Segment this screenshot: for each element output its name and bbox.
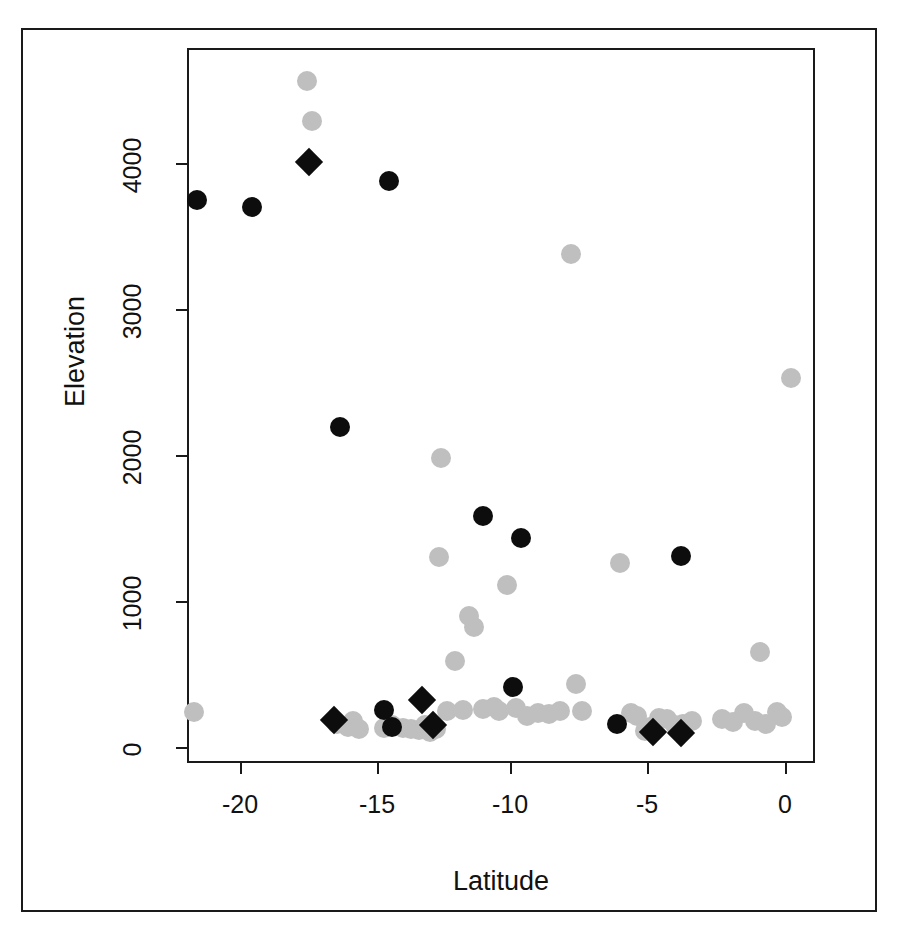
x-tick-minus5 — [647, 763, 649, 774]
x-tick-minus20 — [240, 763, 242, 774]
data-point-gray-circles-0 — [184, 702, 204, 722]
data-point-gray-circles-2 — [302, 111, 322, 131]
data-point-gray-circles-31 — [561, 244, 581, 264]
data-point-gray-circles-1 — [297, 71, 317, 91]
x-tick-label-minus15: -15 — [337, 790, 417, 819]
y-tick-2000 — [176, 455, 187, 457]
plot-panel-border — [187, 48, 815, 763]
data-point-gray-circles-52 — [781, 368, 801, 388]
data-point-gray-circles-16 — [429, 547, 449, 567]
y-axis-label: Elevation — [60, 272, 91, 432]
y-tick-4000 — [176, 163, 187, 165]
data-point-gray-circles-34 — [610, 553, 630, 573]
data-point-gray-circles-18 — [445, 651, 465, 671]
figure-container: 0 1000 2000 3000 4000 -20 -15 -10 -5 0 E… — [0, 0, 898, 931]
x-tick-label-minus20: -20 — [200, 790, 280, 819]
x-axis-label: Latitude — [401, 866, 601, 897]
y-tick-3000 — [176, 309, 187, 311]
data-point-black-circles-2 — [379, 171, 399, 191]
x-tick-label-minus5: -5 — [607, 790, 687, 819]
data-point-black-circles-0 — [187, 190, 207, 210]
x-tick-label-0: 0 — [745, 790, 825, 819]
x-tick-minus15 — [377, 763, 379, 774]
y-tick-1000 — [176, 601, 187, 603]
y-tick-label-3000: 3000 — [118, 272, 147, 352]
x-tick-0 — [785, 763, 787, 774]
x-tick-label-minus10: -10 — [470, 790, 550, 819]
data-point-black-circles-10 — [607, 714, 627, 734]
y-tick-0 — [176, 747, 187, 749]
data-point-black-circles-6 — [671, 546, 691, 566]
y-tick-label-4000: 4000 — [118, 126, 147, 206]
y-tick-label-2000: 2000 — [118, 418, 147, 498]
y-tick-label-1000: 1000 — [118, 564, 147, 644]
y-tick-label-0: 0 — [118, 710, 147, 790]
data-point-black-circles-1 — [242, 197, 262, 217]
data-point-gray-circles-19 — [453, 700, 473, 720]
data-point-black-circles-9 — [503, 677, 523, 697]
data-point-black-circles-8 — [382, 717, 402, 737]
data-point-gray-circles-33 — [572, 701, 592, 721]
data-point-black-circles-3 — [330, 417, 350, 437]
data-point-gray-circles-30 — [550, 701, 570, 721]
data-point-black-circles-4 — [473, 506, 493, 526]
x-tick-minus10 — [510, 763, 512, 774]
